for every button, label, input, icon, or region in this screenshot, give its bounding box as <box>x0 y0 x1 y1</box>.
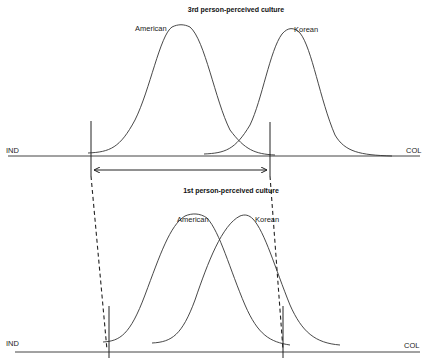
left-dashed-connector <box>91 176 107 350</box>
top-panel: 3rd person-perceived culture IND COL Ame… <box>6 6 421 176</box>
bottom-american-label: American <box>177 215 209 224</box>
top-axis-right-label: COL <box>406 146 421 155</box>
bottom-panel-title: 1st person-perceived culture <box>183 187 279 195</box>
top-korean-label: Korean <box>294 25 318 34</box>
bottom-axis-right-label: COL <box>404 341 419 350</box>
top-axis-left-label: IND <box>6 146 20 155</box>
top-korean-curve <box>204 29 392 156</box>
bottom-korean-label: Korean <box>255 215 279 224</box>
bottom-korean-curve <box>152 215 340 345</box>
bottom-panel: 1st person-perceived culture IND COL Ame… <box>6 187 420 358</box>
right-dashed-connector <box>270 176 283 350</box>
bottom-axis-left-label: IND <box>6 339 20 348</box>
top-american-label: American <box>135 24 167 33</box>
top-panel-title: 3rd person-perceived culture <box>188 6 285 14</box>
top-american-curve <box>88 25 275 155</box>
culture-diagram: 3rd person-perceived culture IND COL Ame… <box>0 0 427 362</box>
